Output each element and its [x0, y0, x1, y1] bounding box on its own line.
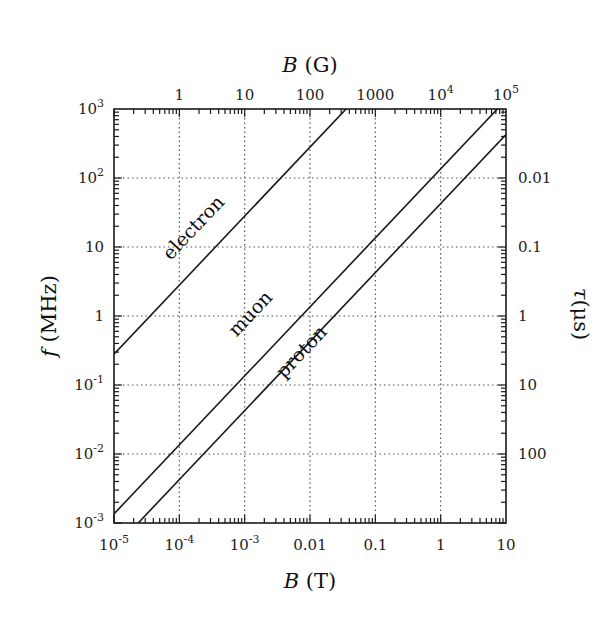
y-tick-label: 102: [78, 166, 104, 187]
y-tick-label: 10: [85, 238, 104, 256]
grid-lines: [114, 109, 506, 523]
x-axis-title: B (T): [283, 569, 337, 593]
y-tick-label: 103: [78, 97, 104, 118]
y2-tick-label: 100: [518, 445, 547, 463]
x-tick-label: 0.1: [363, 536, 387, 554]
curve-label-electron: electron: [158, 191, 229, 264]
chart: electronmuonproton10-510-410-30.010.1110…: [0, 0, 606, 617]
x-tick-label: 0.01: [293, 536, 326, 554]
x2-tick-label: 10: [235, 86, 254, 104]
y-tick-label: 10-1: [74, 373, 104, 394]
x2-tick-label: 1000: [356, 86, 394, 104]
x2-tick-label: 100: [296, 86, 325, 104]
y2-axis-title: τ(μs): [569, 288, 593, 340]
x-tick-label: 10: [496, 536, 515, 554]
curve-label-proton: proton: [271, 320, 331, 382]
x-tick-label: 10-4: [164, 533, 194, 554]
x2-tick-label: 104: [428, 83, 454, 104]
x-tick-label: 10-5: [99, 533, 129, 554]
curve-label-muon: muon: [223, 286, 276, 340]
x2-axis-title: B (G): [281, 53, 337, 77]
tick-labels: electronmuonproton10-510-410-30.010.1110…: [37, 53, 593, 554]
y-tick-label: 10-2: [74, 442, 104, 463]
y-tick-label: 1: [94, 307, 104, 325]
x-tick-label: 1: [436, 536, 446, 554]
y2-tick-label: 0.1: [518, 238, 542, 256]
y2-tick-label: 10: [518, 376, 537, 394]
y2-tick-label: 1: [518, 307, 528, 325]
y-tick-label: 10-3: [74, 511, 104, 532]
x2-tick-label: 1: [175, 86, 185, 104]
y2-tick-label: 0.01: [518, 169, 551, 187]
x-tick-label: 10-3: [230, 533, 260, 554]
y-axis-title: f (MHz): [37, 275, 61, 359]
x2-tick-label: 105: [493, 83, 519, 104]
